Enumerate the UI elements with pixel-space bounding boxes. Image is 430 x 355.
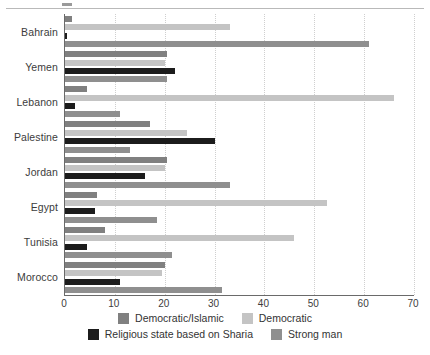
top-divider	[6, 8, 424, 9]
bar[interactable]	[65, 138, 215, 144]
bar-row	[65, 165, 414, 171]
bar-row	[65, 200, 414, 206]
bar-row	[65, 252, 414, 258]
bar-row	[65, 51, 414, 57]
x-axis-tick-50: 50	[308, 298, 319, 309]
legend-label: Strong man	[288, 328, 342, 340]
legend-row: Democratic/IslamicDemocratic	[109, 312, 321, 324]
bar[interactable]	[65, 24, 230, 30]
y-axis-label-bahrain: Bahrain	[21, 26, 58, 38]
bar[interactable]	[65, 76, 167, 82]
bar[interactable]	[65, 130, 187, 136]
y-axis-label-tunisia: Tunisia	[24, 236, 58, 248]
bar-row	[65, 95, 414, 101]
bar[interactable]	[65, 244, 87, 250]
bar[interactable]	[65, 182, 230, 188]
bar-group	[65, 225, 414, 260]
legend-row: Religious state based on ShariaStrong ma…	[79, 328, 352, 340]
chart-legend: Democratic/IslamicDemocraticReligious st…	[0, 312, 430, 340]
bar[interactable]	[65, 287, 222, 293]
bar[interactable]	[65, 111, 120, 117]
bar-group	[65, 14, 414, 49]
bar-row	[65, 192, 414, 198]
x-axis-tick-70: 70	[407, 298, 418, 309]
bar-row	[65, 279, 414, 285]
bar[interactable]	[65, 95, 394, 101]
bar-groups	[65, 14, 414, 295]
bar[interactable]	[65, 270, 162, 276]
bar[interactable]	[65, 192, 97, 198]
x-axis-tick-30: 30	[208, 298, 219, 309]
plot-area	[64, 14, 414, 296]
bar-row	[65, 147, 414, 153]
bar-row	[65, 130, 414, 136]
legend-label: Religious state based on Sharia	[105, 328, 253, 340]
bar-row	[65, 227, 414, 233]
bar[interactable]	[65, 235, 294, 241]
y-axis-label-lebanon: Lebanon	[16, 96, 58, 108]
bar-row	[65, 111, 414, 117]
bar-row	[65, 33, 414, 39]
bar[interactable]	[65, 51, 167, 57]
bar-row	[65, 68, 414, 74]
top-divider-stub	[62, 3, 72, 6]
gridline-70	[414, 14, 415, 295]
x-axis-tick-20: 20	[158, 298, 169, 309]
bar-row	[65, 182, 414, 188]
bar[interactable]	[65, 252, 172, 258]
bar[interactable]	[65, 165, 165, 171]
y-axis-label-morocco: Morocco	[17, 271, 58, 283]
x-axis-tick-60: 60	[358, 298, 369, 309]
y-axis-category-labels: BahrainYemenLebanonPalestineJordanEgyptT…	[0, 14, 58, 295]
bar-group	[65, 190, 414, 225]
bar-row	[65, 217, 414, 223]
bar[interactable]	[65, 121, 150, 127]
bar[interactable]	[65, 86, 87, 92]
bar-group	[65, 49, 414, 84]
bar-row	[65, 157, 414, 163]
legend-swatch-icon	[242, 313, 253, 324]
bar[interactable]	[65, 227, 105, 233]
bar[interactable]	[65, 157, 167, 163]
bar-group	[65, 119, 414, 154]
bar-row	[65, 16, 414, 22]
legend-swatch-icon	[118, 313, 129, 324]
x-axis-tick-0: 0	[61, 298, 67, 309]
bar[interactable]	[65, 41, 369, 47]
bar[interactable]	[65, 60, 165, 66]
bar[interactable]	[65, 217, 157, 223]
bar-row	[65, 235, 414, 241]
bar[interactable]	[65, 68, 175, 74]
bar[interactable]	[65, 200, 327, 206]
y-axis-label-jordan: Jordan	[25, 166, 58, 178]
bar-row	[65, 76, 414, 82]
y-axis-label-palestine: Palestine	[14, 131, 58, 143]
legend-item[interactable]: Democratic/Islamic	[118, 312, 224, 324]
legend-item[interactable]: Strong man	[271, 328, 342, 340]
legend-item[interactable]: Democratic	[242, 312, 312, 324]
bar[interactable]	[65, 147, 130, 153]
bar-row	[65, 262, 414, 268]
bar-row	[65, 244, 414, 250]
bar[interactable]	[65, 262, 165, 268]
bar-group	[65, 260, 414, 295]
bar-row	[65, 103, 414, 109]
bar-row	[65, 287, 414, 293]
bar[interactable]	[65, 33, 67, 39]
bar-row	[65, 86, 414, 92]
bar-group	[65, 84, 414, 119]
legend-item[interactable]: Religious state based on Sharia	[88, 328, 253, 340]
x-axis-tick-40: 40	[258, 298, 269, 309]
bar-row	[65, 270, 414, 276]
bar-row	[65, 24, 414, 30]
bar-row	[65, 208, 414, 214]
bar[interactable]	[65, 279, 120, 285]
legend-label: Democratic	[259, 312, 312, 324]
bar-row	[65, 41, 414, 47]
y-axis-label-egypt: Egypt	[31, 201, 58, 213]
bar[interactable]	[65, 16, 72, 22]
bar[interactable]	[65, 208, 95, 214]
legend-label: Democratic/Islamic	[135, 312, 224, 324]
bar[interactable]	[65, 173, 145, 179]
bar[interactable]	[65, 103, 75, 109]
